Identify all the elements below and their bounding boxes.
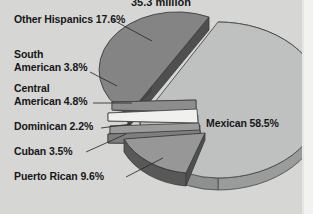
- chart-canvas: 35.3 million Other Hispanics 17.6% South…: [0, 0, 313, 214]
- label-south-american-line2: American 3.8%: [14, 62, 87, 74]
- label-central-american-line2: American 4.8%: [14, 96, 87, 108]
- label-dominican: Dominican 2.2%: [14, 121, 93, 133]
- label-mexican: Mexican 58.5%: [206, 118, 279, 130]
- label-south-american-line1: South: [14, 49, 43, 61]
- label-cuban: Cuban 3.5%: [14, 146, 73, 158]
- label-puerto-rican: Puerto Rican 9.6%: [14, 171, 104, 183]
- label-other-hispanics: Other Hispanics 17.6%: [14, 14, 125, 26]
- label-central-american-line1: Central: [14, 83, 49, 95]
- page-right-margin: [304, 0, 313, 214]
- chart-title: 35.3 million: [131, 0, 191, 8]
